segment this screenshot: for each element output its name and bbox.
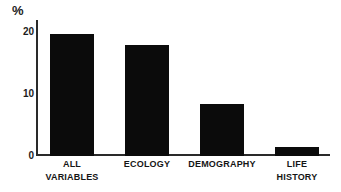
category-label-line-1: LIFE (253, 158, 341, 171)
category-label-life-history: LIFE HISTORY (253, 158, 341, 184)
x-axis-category-labels: ALL VARIABLES ECOLOGY DEMOGRAPHY LIFE HI… (38, 158, 330, 192)
category-label-line-2: VARIABLES (28, 171, 116, 184)
bar-chart: % 20 10 0 ALL VARIABLES ECOLOGY DEMOGRAP… (0, 0, 341, 192)
y-tick-label-20: 20 (10, 27, 34, 37)
bar-life-history (275, 147, 319, 156)
plot-area (38, 20, 330, 156)
bar-demography (200, 104, 244, 156)
category-label-line-2: HISTORY (253, 171, 341, 184)
bar-all-variables (50, 34, 94, 156)
bar-ecology (125, 45, 169, 156)
y-tick-label-10: 10 (10, 89, 34, 99)
